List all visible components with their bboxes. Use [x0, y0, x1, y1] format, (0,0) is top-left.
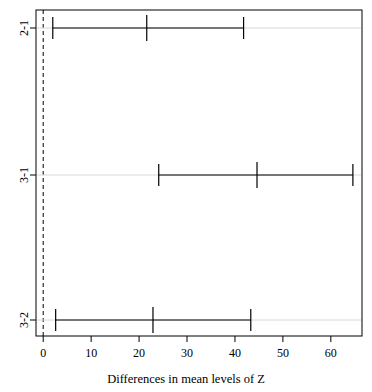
x-tick-label: 40 — [229, 346, 241, 360]
x-tick-label: 60 — [325, 346, 337, 360]
x-tick-label: 0 — [40, 346, 46, 360]
x-tick-label: 10 — [85, 346, 97, 360]
confidence-interval-plot: 0102030405060 2-13-13-2 Differences in m… — [0, 0, 372, 392]
x-tick-label: 30 — [181, 346, 193, 360]
x-axis: 0102030405060 — [40, 336, 337, 360]
y-tick-label: 3-1 — [17, 167, 31, 183]
plot-panel-background — [36, 10, 362, 336]
plot-canvas: 0102030405060 2-13-13-2 Differences in m… — [0, 0, 372, 392]
y-tick-label: 2-1 — [17, 20, 31, 36]
x-axis-title: Differences in mean levels of Z — [107, 372, 265, 386]
y-axis: 2-13-13-2 — [17, 20, 36, 328]
x-tick-label: 50 — [277, 346, 289, 360]
x-tick-label: 20 — [133, 346, 145, 360]
y-tick-label: 3-2 — [17, 312, 31, 328]
